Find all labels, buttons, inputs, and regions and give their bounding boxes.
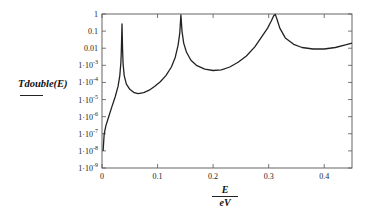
x-axis-label-denominator: eV	[212, 197, 238, 209]
y-tick-label: 1·10-8	[78, 145, 98, 156]
y-tick-label: 1	[94, 10, 98, 19]
y-tick-label: 0.1	[88, 27, 98, 36]
y-tick-label: 1·10-6	[78, 111, 98, 122]
plot-border	[102, 14, 352, 168]
y-axis-label: Tdouble(E)	[18, 78, 68, 89]
x-axis-label: E eV	[212, 184, 238, 209]
y-tick-label: 1·10-9	[78, 162, 98, 173]
transmission-curve	[103, 14, 352, 151]
y-tick-label: 1·10-5	[78, 94, 98, 105]
x-axis-ticks: 00.10.20.30.4	[100, 14, 329, 181]
y-tick-label: 1·10-4	[78, 76, 98, 87]
chart-canvas: 10.10.011·10-31·10-41·10-51·10-61·10-71·…	[0, 0, 370, 219]
x-tick-label: 0.4	[319, 172, 329, 181]
y-axis-ticks: 10.10.011·10-31·10-41·10-51·10-61·10-71·…	[78, 10, 352, 173]
x-axis-label-numerator: E	[212, 184, 238, 197]
y-axis-label-underline	[20, 95, 43, 96]
x-tick-label: 0	[100, 172, 104, 181]
y-tick-label: 1·10-3	[78, 59, 98, 70]
plot-frame	[102, 14, 352, 168]
y-tick-label: 1·10-7	[78, 128, 98, 139]
y-tick-label: 0.01	[84, 44, 98, 53]
x-tick-label: 0.3	[264, 172, 274, 181]
x-tick-label: 0.1	[153, 172, 163, 181]
x-tick-label: 0.2	[208, 172, 218, 181]
